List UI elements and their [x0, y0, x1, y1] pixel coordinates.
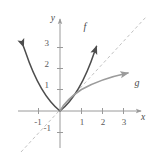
function-graph-figure: 3 2 1 -1 -1 1 2 3 y x f g — [0, 0, 153, 159]
y-tick-label-3: 3 — [45, 39, 50, 48]
x-tick-label-1: 1 — [80, 118, 85, 127]
curve-label-g: g — [135, 78, 140, 88]
y-tick-label-1: 1 — [45, 81, 50, 90]
x-tick-label-3: 3 — [122, 118, 127, 127]
y-axis-label: y — [51, 14, 55, 24]
curve-g — [60, 73, 128, 111]
plot-canvas — [0, 0, 153, 159]
x-tick-label-neg1: -1 — [34, 118, 42, 127]
y-tick-label-neg1: -1 — [44, 124, 52, 133]
y-axis — [57, 19, 63, 148]
x-axis — [18, 108, 141, 114]
x-tick-label-2: 2 — [101, 118, 106, 127]
x-axis-label: x — [141, 113, 145, 123]
curve-label-f: f — [84, 22, 87, 32]
y-tick-label-2: 2 — [45, 60, 50, 69]
